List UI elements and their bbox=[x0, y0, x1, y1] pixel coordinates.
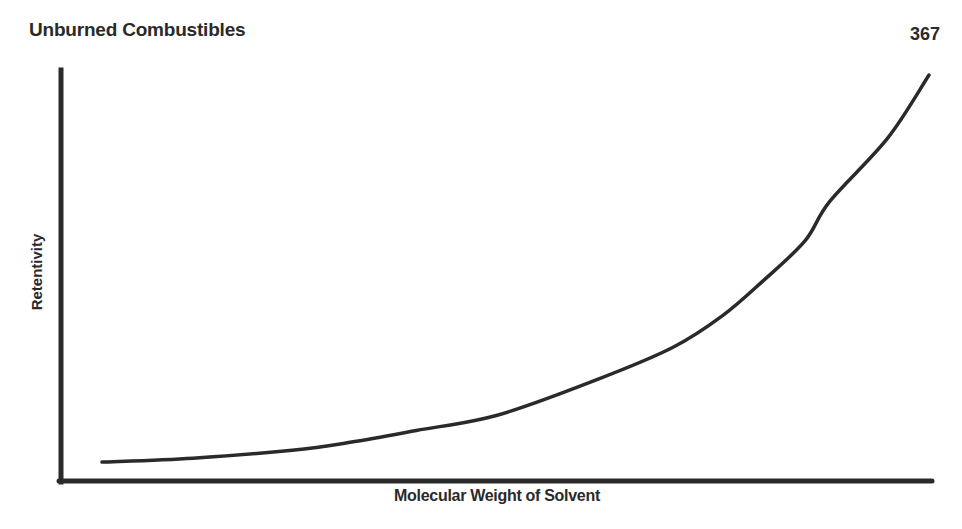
data-curve bbox=[102, 75, 929, 462]
y-axis-label: Retentivity bbox=[28, 234, 45, 311]
x-axis-label: Molecular Weight of Solvent bbox=[394, 487, 600, 505]
line-chart bbox=[0, 0, 962, 529]
